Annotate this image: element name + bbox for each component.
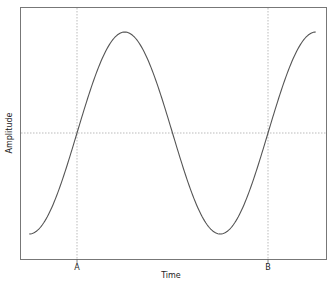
grid-lines [21,8,326,259]
plot-frame [21,8,327,260]
x-axis-label: Time [160,271,181,280]
x-tick-label-b: B [265,263,271,272]
y-axis-label: Amplitude [5,112,14,153]
sine-wave-chart: A B Time Amplitude [0,0,335,284]
x-tick-label-a: A [74,263,80,272]
